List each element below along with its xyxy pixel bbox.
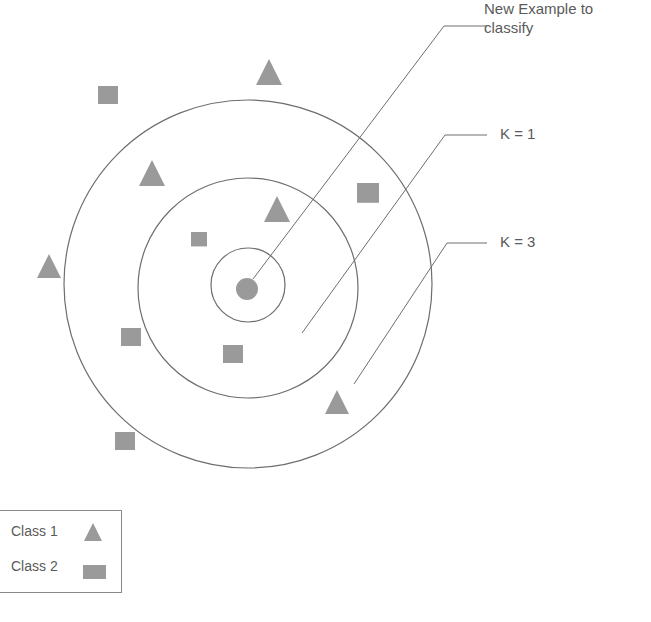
callout-line-0 (253, 26, 487, 279)
legend-label-class-1: Class 1 (11, 523, 58, 539)
triangle-icon (264, 196, 290, 222)
label-k1: K = 1 (500, 124, 535, 143)
label-new-example: New Example to classify (484, 0, 593, 37)
label-new-example-line2: classify (484, 18, 593, 37)
triangle-icon (325, 390, 349, 414)
query-point (236, 278, 258, 300)
triangle-icon (256, 59, 282, 85)
callout-line-1 (302, 135, 487, 333)
legend-label-class-2: Class 2 (11, 558, 58, 574)
label-k3: K = 3 (500, 232, 535, 251)
callout-lines (253, 26, 487, 384)
triangle-icon (139, 160, 165, 186)
square-icon (83, 564, 107, 580)
triangle-icon (83, 522, 103, 542)
square-icon (191, 232, 207, 246)
square-icon (115, 432, 135, 450)
square-icon (223, 345, 243, 363)
legend: Class 1 Class 2 (0, 510, 122, 593)
square-icon (357, 183, 379, 203)
label-new-example-line1: New Example to (484, 0, 593, 18)
triangle-icon (37, 254, 61, 278)
query-point-icon (236, 278, 258, 300)
square-icon (121, 328, 141, 346)
square-icon (98, 86, 118, 104)
callout-line-2 (354, 243, 487, 384)
